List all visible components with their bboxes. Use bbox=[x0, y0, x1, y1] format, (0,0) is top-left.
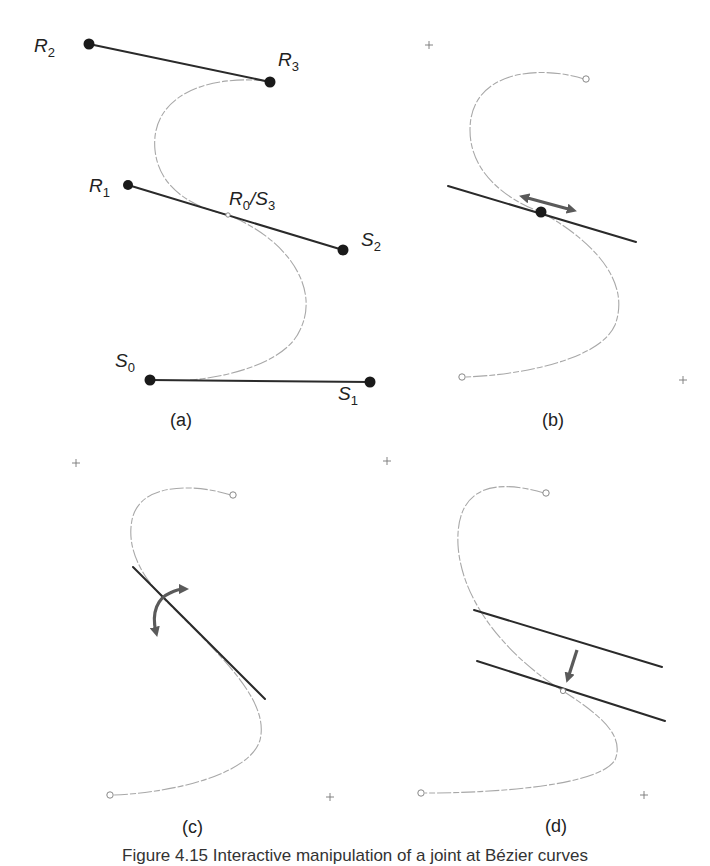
panel-a: R2 R3 R1 R0/S3 S2 S0 S1 (a) bbox=[34, 35, 381, 430]
control-point-s0[interactable] bbox=[145, 375, 156, 386]
panel-d: (d) bbox=[383, 457, 665, 836]
endpoint-top[interactable] bbox=[543, 490, 549, 496]
control-point-r2[interactable] bbox=[84, 39, 95, 50]
endpoint-top[interactable] bbox=[230, 492, 236, 498]
panel-label-d: (d) bbox=[545, 816, 567, 836]
plus-marker-icon bbox=[72, 459, 80, 467]
bezier-curve bbox=[425, 487, 617, 793]
tangent-line[interactable] bbox=[133, 567, 265, 699]
joint-point[interactable] bbox=[560, 688, 565, 693]
plus-marker-icon bbox=[326, 793, 334, 801]
joint-point[interactable] bbox=[226, 213, 230, 217]
endpoint-bottom[interactable] bbox=[418, 790, 424, 796]
endpoint-bottom[interactable] bbox=[107, 792, 113, 798]
control-point-r3[interactable] bbox=[265, 77, 276, 88]
plus-marker-icon bbox=[679, 376, 687, 384]
down-arrow-icon bbox=[568, 650, 577, 678]
plus-marker-icon bbox=[425, 41, 433, 49]
label-s0: S0 bbox=[115, 350, 135, 375]
label-s2: S2 bbox=[361, 229, 381, 254]
plus-marker-icon bbox=[640, 791, 648, 799]
bezier-curve bbox=[114, 488, 261, 795]
plus-marker-icon bbox=[383, 457, 391, 465]
panel-label-b: (b) bbox=[542, 410, 564, 430]
panel-label-a: (a) bbox=[170, 410, 192, 430]
rotate-arrow-icon bbox=[154, 589, 184, 632]
panel-b: (b) bbox=[425, 41, 687, 430]
endpoint-top[interactable] bbox=[583, 76, 589, 82]
label-r0-s3: R0/S3 bbox=[229, 188, 275, 213]
control-segment-r2-r3 bbox=[89, 44, 270, 82]
bezier-curve bbox=[155, 80, 306, 380]
label-s1: S1 bbox=[338, 383, 358, 408]
control-point-r1[interactable] bbox=[123, 180, 133, 190]
figure-caption: Figure 4.15 Interactive manipulation of … bbox=[0, 846, 710, 866]
label-r1: R1 bbox=[89, 175, 110, 200]
label-r2: R2 bbox=[34, 35, 55, 60]
label-r3: R3 bbox=[278, 49, 299, 74]
tangent-line-original[interactable] bbox=[474, 610, 662, 667]
control-segment-s0-s1 bbox=[150, 380, 370, 382]
joint-point[interactable] bbox=[536, 207, 547, 218]
panel-c: (c) bbox=[72, 459, 334, 837]
control-point-s2[interactable] bbox=[338, 245, 349, 256]
panel-label-c: (c) bbox=[182, 817, 203, 837]
endpoint-bottom[interactable] bbox=[459, 374, 465, 380]
control-point-s1[interactable] bbox=[365, 377, 376, 388]
bezier-curve bbox=[466, 72, 619, 377]
